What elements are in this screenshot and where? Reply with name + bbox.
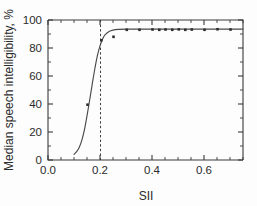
plot-frame — [48, 20, 243, 160]
data-point-marker — [158, 29, 161, 32]
data-point-marker — [151, 28, 154, 31]
data-point-marker — [100, 39, 103, 42]
speech-intelligibility-scatter-plot: 0.00.20.40.6 020406080100 SII Median spe… — [0, 0, 257, 206]
x-axis-minor-ticks — [61, 20, 243, 160]
y-tick-label: 20 — [29, 126, 42, 138]
y-tick-label: 80 — [29, 42, 42, 54]
x-axis-major-ticks — [48, 20, 204, 160]
fitted-logistic-curve — [74, 29, 243, 154]
chart-figure: 0.00.20.40.6 020406080100 SII Median spe… — [0, 0, 257, 206]
data-point-marker — [125, 29, 128, 32]
x-tick-label: 0.2 — [92, 164, 108, 176]
x-tick-label: 0.0 — [40, 164, 56, 176]
x-axis-tick-labels: 0.00.20.40.6 — [40, 164, 212, 176]
y-tick-label: 100 — [23, 14, 42, 26]
y-tick-label: 60 — [29, 70, 42, 82]
data-point-marker — [164, 28, 167, 31]
data-point-marker — [171, 29, 174, 32]
y-tick-label: 40 — [29, 98, 42, 110]
x-tick-label: 0.6 — [196, 164, 212, 176]
data-point-marker — [138, 29, 141, 32]
logistic-fit-path — [74, 29, 243, 154]
x-axis-title: SII — [139, 189, 154, 203]
data-point-marker — [190, 28, 193, 31]
left-bottom-axis — [48, 20, 243, 160]
data-point-markers — [86, 28, 232, 106]
data-point-marker — [86, 103, 89, 106]
data-point-marker — [184, 29, 187, 32]
data-point-marker — [203, 29, 206, 32]
x-tick-label: 0.4 — [144, 164, 161, 176]
data-point-marker — [229, 28, 232, 31]
data-point-marker — [112, 36, 115, 39]
y-axis-minor-ticks — [48, 34, 243, 146]
top-right-axis — [48, 20, 243, 160]
y-axis-title: Median speech intelligibility, % — [2, 9, 16, 171]
y-axis-major-ticks — [48, 20, 243, 160]
data-point-marker — [177, 28, 180, 31]
y-axis-tick-labels: 020406080100 — [23, 14, 42, 166]
y-tick-label: 0 — [36, 154, 42, 166]
data-point-marker — [216, 28, 219, 31]
